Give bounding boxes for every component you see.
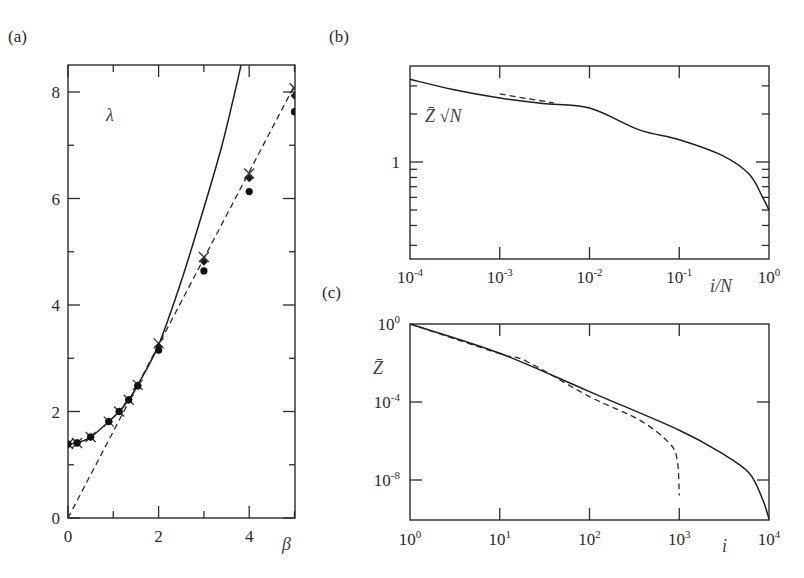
diamond-marker xyxy=(291,92,299,100)
panel-label-c: (c) xyxy=(322,283,341,302)
panel-b-plot xyxy=(410,79,769,210)
dot-marker xyxy=(291,108,298,115)
panel-b-frame xyxy=(410,66,769,259)
dot-marker xyxy=(125,396,132,403)
y-tick-label: 1 xyxy=(392,153,401,172)
panel-a: 02402468 λ β xyxy=(52,65,304,554)
dot-marker xyxy=(155,347,162,354)
panel-c-ticks xyxy=(410,324,769,520)
tick-label: 10-2 xyxy=(576,266,602,287)
tick-label: 102 xyxy=(578,528,601,549)
y-tick-label: 2 xyxy=(52,403,61,422)
dot-marker xyxy=(64,440,71,447)
panel-a-xlabel: β xyxy=(281,534,291,554)
solid-curve xyxy=(68,65,241,444)
tick-label: 10-3 xyxy=(487,266,514,287)
tick-label: 10-4 xyxy=(374,391,401,412)
panel-a-ticks xyxy=(68,65,295,518)
x-tick-label: 4 xyxy=(245,527,254,546)
y-tick-label: 8 xyxy=(52,83,61,102)
y-tick-label: 0 xyxy=(52,509,61,528)
dot-marker xyxy=(105,418,112,425)
dot-marker xyxy=(116,408,123,415)
dot-marker xyxy=(73,439,80,446)
dashed-line xyxy=(68,68,304,518)
y-tick-label: 4 xyxy=(52,296,61,315)
panel-a-frame xyxy=(68,65,295,518)
dot-marker xyxy=(87,433,94,440)
x-tick-label: 0 xyxy=(64,527,73,546)
tick-label: 101 xyxy=(489,528,512,549)
x-tick-label: 2 xyxy=(154,527,163,546)
tick-label: 100 xyxy=(758,266,781,287)
panel-c-xlabel: i xyxy=(722,536,727,556)
tick-label: 100 xyxy=(399,528,422,549)
dot-marker xyxy=(134,382,141,389)
panel-b-xlabel: i/N xyxy=(710,276,733,296)
panel-label-b: (b) xyxy=(329,27,349,46)
panel-b: 10-410-310-210-11001 i/N Z̄ √N xyxy=(392,66,781,296)
panel-c-frame xyxy=(410,324,769,520)
dot-marker xyxy=(200,267,207,274)
panel-a-ylabel: λ xyxy=(105,105,114,125)
panel-c-plot xyxy=(410,324,769,519)
panel-b-ticks xyxy=(410,66,769,259)
tick-label: 104 xyxy=(758,528,781,549)
panel-b-tick-labels: 10-410-310-210-11001 xyxy=(392,153,781,287)
panel-a-tick-labels: 02402468 xyxy=(52,83,254,546)
dashed-curve xyxy=(410,324,679,496)
panel-c-ylabel: Z̄ xyxy=(373,358,384,378)
tick-label: 10-4 xyxy=(397,266,424,287)
y-tick-label: 6 xyxy=(52,190,61,209)
tick-label: 10-8 xyxy=(374,469,401,490)
tick-label: 103 xyxy=(668,528,691,549)
solid-curve xyxy=(410,79,769,210)
tick-label: 10-1 xyxy=(666,266,692,287)
panel-label-a: (a) xyxy=(8,27,27,46)
figure-canvas: (a) (b) (c) 02402468 λ β 10-410-310-210-… xyxy=(0,0,804,578)
tick-label: 100 xyxy=(378,313,401,334)
panel-c-tick-labels: 10010110210310410010-410-8 xyxy=(374,313,781,549)
solid-curve xyxy=(410,324,769,519)
dot-marker xyxy=(246,188,253,195)
panel-a-plot xyxy=(63,65,304,518)
panel-b-annotation: Z̄ √N xyxy=(425,106,462,126)
panel-c: 10010110210310410010-410-8 Z̄ i xyxy=(373,313,781,556)
